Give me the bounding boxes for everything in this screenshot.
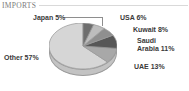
pie-slices-svg (49, 23, 117, 69)
pie-chart (49, 23, 117, 79)
japan-leader-line-vertical (102, 17, 103, 26)
japan-leader-line-horizontal (63, 17, 103, 18)
slice-label-kuwait: Kuwait 8% (133, 26, 168, 34)
page-title: IMPORTS (0, 1, 36, 10)
chart-area: Japan 5% USA 6% Kuwait 8% Saudi Arabia 1… (0, 10, 189, 91)
slice-label-japan: Japan 5% (33, 14, 65, 22)
slice-label-uae: UAE 13% (134, 63, 165, 71)
figure-header: IMPORTS (0, 0, 189, 10)
slice-label-saudi-arabia-line2: Arabia 11% (137, 45, 174, 53)
pie-top-face (49, 23, 117, 69)
slice-label-saudi-arabia-line1: Saudi (137, 37, 156, 44)
imports-pie-chart-figure: IMPORTS (0, 0, 189, 91)
slice-label-usa: USA 6% (120, 14, 147, 22)
slice-label-other: Other 57% (4, 54, 39, 62)
header-divider (39, 5, 188, 6)
slice-label-saudi-arabia: Saudi Arabia 11% (137, 37, 174, 53)
